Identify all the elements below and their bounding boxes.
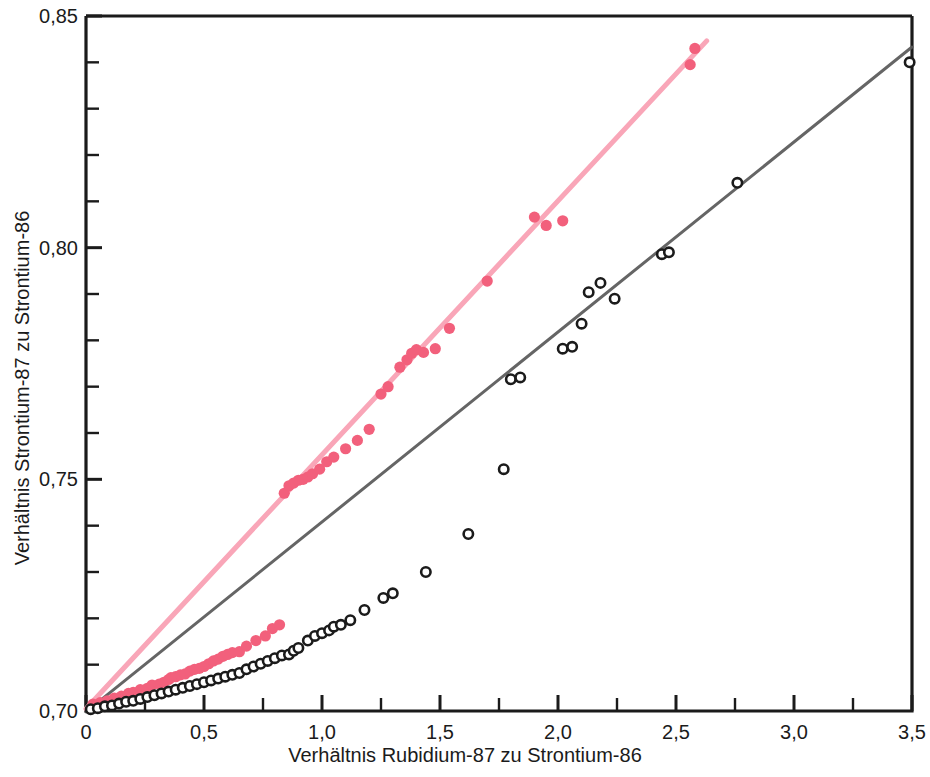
data-point — [685, 59, 696, 70]
data-point — [596, 278, 605, 287]
data-point — [558, 344, 567, 353]
data-point — [340, 443, 351, 454]
x-tick-label: 2,0 — [544, 721, 572, 744]
plot-area — [0, 0, 930, 777]
data-point — [516, 373, 525, 382]
data-point — [360, 605, 369, 614]
data-point — [506, 375, 515, 384]
y-tick-label: 0,85 — [8, 5, 78, 28]
data-point — [689, 43, 700, 54]
data-point — [364, 424, 375, 435]
data-point — [346, 615, 355, 624]
data-point — [733, 178, 742, 187]
y-tick-label: 0,70 — [8, 700, 78, 723]
data-point — [444, 323, 455, 334]
x-tick-label: 2,5 — [662, 721, 690, 744]
data-point — [382, 381, 393, 392]
x-tick-label: 0 — [80, 721, 91, 744]
data-point — [610, 294, 619, 303]
x-tick-label: 3,0 — [780, 721, 808, 744]
data-point — [557, 215, 568, 226]
data-point — [529, 211, 540, 222]
data-point — [336, 620, 345, 629]
data-point — [421, 567, 430, 576]
chart-background — [0, 0, 930, 777]
data-point — [294, 643, 303, 652]
data-point — [567, 342, 576, 351]
data-point — [241, 641, 252, 652]
data-point — [379, 593, 388, 602]
x-tick-label: 1,5 — [426, 721, 454, 744]
data-point — [584, 287, 593, 296]
data-point — [388, 589, 397, 598]
y-axis-title: Verhältnis Strontium-87 zu Strontium-86 — [11, 211, 34, 566]
data-point — [274, 619, 285, 630]
data-point — [464, 529, 473, 538]
data-point — [352, 435, 363, 446]
data-point — [482, 275, 493, 286]
data-point — [418, 347, 429, 358]
x-tick-label: 3,5 — [898, 721, 926, 744]
data-point — [905, 58, 914, 67]
x-axis-title: Verhältnis Rubidium-87 zu Strontium-86 — [288, 744, 642, 767]
data-point — [430, 343, 441, 354]
data-point — [541, 220, 552, 231]
x-tick-label: 0,5 — [190, 721, 218, 744]
x-tick-label: 1,0 — [308, 721, 336, 744]
data-point — [577, 319, 586, 328]
data-point — [664, 248, 673, 257]
data-point — [328, 451, 339, 462]
isochron-chart: 0,700,750,800,8500,51,01,52,02,53,03,5 V… — [0, 0, 930, 777]
data-point — [499, 464, 508, 473]
